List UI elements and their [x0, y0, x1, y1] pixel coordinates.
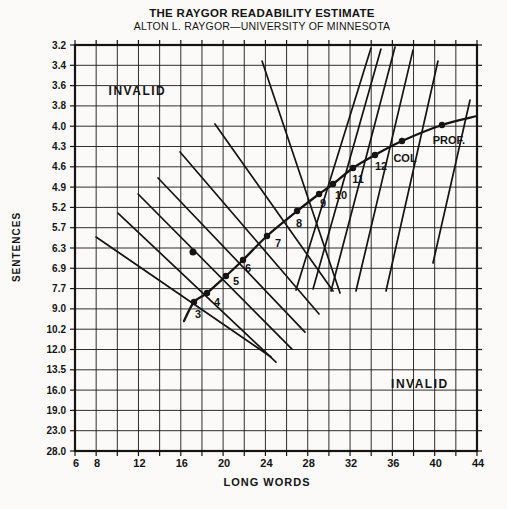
y-tick-label: 19.0: [47, 405, 67, 416]
y-tick-label: 3.6: [52, 80, 66, 91]
y-tick-label: 4.9: [52, 182, 66, 193]
grade-label: 6: [245, 262, 251, 274]
grade-label: 3: [195, 308, 201, 320]
y-tick-label: 6.9: [52, 263, 66, 274]
y-tick-label: 3.2: [52, 40, 66, 51]
grade-separator-line: [96, 237, 271, 357]
x-tick-label: 20: [218, 457, 230, 469]
grade-dot: [330, 181, 336, 187]
x-tick-label: 24: [260, 457, 273, 469]
grade-label: 10: [335, 189, 347, 201]
y-tick-label: 5.2: [52, 202, 66, 213]
grade-label: 5: [233, 275, 239, 287]
y-tick-label: 12.0: [47, 344, 67, 355]
x-tick-label: 12: [133, 457, 145, 469]
grade-separator-line: [262, 61, 340, 293]
chart-canvas: 3456789101112COLPROF.INVALIDINVALID3.23.…: [0, 0, 507, 509]
y-tick-label: 7.7: [52, 283, 66, 294]
grade-dot: [439, 122, 445, 128]
grade-dot: [372, 152, 378, 158]
grade-label: 12: [375, 160, 387, 172]
y-tick-label: 4.3: [52, 141, 66, 152]
invalid-region-label: INVALID: [391, 377, 449, 391]
grade-label: 9: [320, 197, 326, 209]
x-tick-label: 36: [387, 457, 399, 469]
x-tick-label: 6: [73, 457, 79, 469]
raygor-readability-chart: THE RAYGOR READABILITY ESTIMATE ALTON L.…: [0, 0, 507, 509]
y-tick-label: 9.0: [52, 303, 66, 314]
grade-dot: [264, 233, 270, 239]
grade-dot: [350, 165, 356, 171]
y-tick-label: 28.0: [47, 446, 67, 457]
grade-label: 4: [214, 296, 221, 308]
x-tick-label: 28: [303, 457, 315, 469]
y-tick-label: 23.0: [47, 425, 67, 436]
y-tick-label: 13.5: [47, 364, 67, 375]
y-tick-label: 16.0: [47, 385, 67, 396]
grade-separator-line: [433, 100, 470, 263]
grade-dot: [294, 208, 300, 214]
x-tick-label: 40: [430, 457, 442, 469]
grade-dot: [204, 290, 210, 296]
invalid-region-label: INVALID: [109, 84, 167, 98]
grade-dot: [399, 138, 405, 144]
grade-dot: [191, 299, 197, 305]
grade-label: PROF.: [433, 134, 465, 146]
sample-point: [189, 249, 196, 256]
grade-separator-line: [180, 152, 319, 314]
x-tick-label: 44: [472, 457, 485, 469]
y-tick-label: 4.0: [52, 121, 66, 132]
y-tick-label: 5.7: [52, 222, 66, 233]
y-tick-label: 3.4: [52, 60, 66, 71]
x-tick-label: 32: [345, 457, 357, 469]
y-tick-label: 4.6: [52, 161, 66, 172]
grade-dot: [223, 273, 229, 279]
grade-label: 11: [352, 173, 364, 185]
grade-separator-line: [386, 61, 438, 291]
grade-label: 8: [296, 217, 302, 229]
y-tick-label: 10.2: [47, 324, 67, 335]
y-tick-label: 6.3: [52, 243, 66, 254]
x-tick-label: 8: [94, 457, 100, 469]
grade-label: COL: [393, 152, 417, 164]
grade-label: 7: [275, 237, 281, 249]
x-tick-label: 16: [176, 457, 188, 469]
grade-separator-line: [138, 194, 292, 349]
y-tick-label: 3.8: [52, 100, 66, 111]
